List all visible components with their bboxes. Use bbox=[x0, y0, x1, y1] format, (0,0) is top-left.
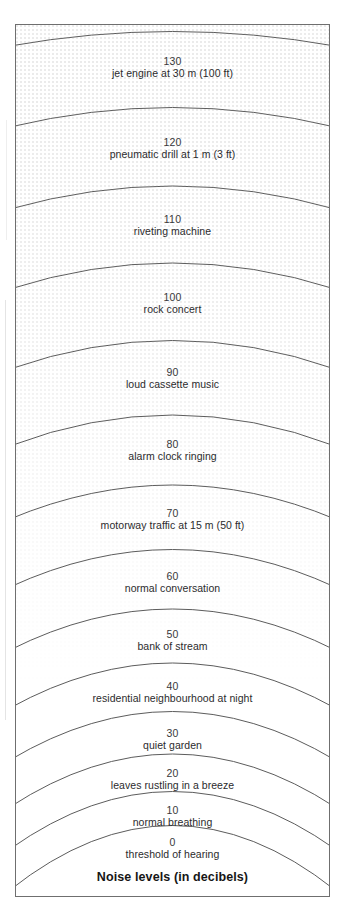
arc-100 bbox=[16, 263, 329, 289]
arc-90 bbox=[16, 341, 329, 370]
band-label-100: 100 rock concert bbox=[16, 291, 329, 316]
arc-110 bbox=[16, 186, 329, 209]
band-description: quiet garden bbox=[16, 739, 329, 752]
scan-artifact-line bbox=[6, 120, 7, 240]
band-value: 10 bbox=[16, 804, 329, 816]
band-description: riveting machine bbox=[16, 225, 329, 238]
band-label-120: 120 pneumatic drill at 1 m (3 ft) bbox=[16, 136, 329, 161]
arc-130 bbox=[16, 32, 329, 47]
band-value: 120 bbox=[16, 136, 329, 148]
band-description: bank of stream bbox=[16, 640, 329, 653]
scanned-page: 130 jet engine at 30 m (100 ft) 120 pneu… bbox=[0, 0, 345, 905]
noise-levels-figure: 130 jet engine at 30 m (100 ft) 120 pneu… bbox=[15, 24, 330, 897]
band-value: 40 bbox=[16, 680, 329, 692]
band-value: 110 bbox=[16, 213, 329, 225]
band-description: rock concert bbox=[16, 303, 329, 316]
band-description: threshold of hearing bbox=[16, 848, 329, 861]
band-description: pneumatic drill at 1 m (3 ft) bbox=[16, 148, 329, 161]
band-value: 50 bbox=[16, 628, 329, 640]
band-description: leaves rustling in a breeze bbox=[16, 779, 329, 792]
band-label-20: 20 leaves rustling in a breeze bbox=[16, 767, 329, 792]
band-value: 100 bbox=[16, 291, 329, 303]
band-value: 30 bbox=[16, 727, 329, 739]
band-description: normal breathing bbox=[16, 816, 329, 829]
band-value: 130 bbox=[16, 55, 329, 67]
band-description: alarm clock ringing bbox=[16, 450, 329, 463]
band-label-60: 60 normal conversation bbox=[16, 570, 329, 595]
arc-120 bbox=[16, 108, 329, 128]
figure-caption: Noise levels (in decibels) bbox=[16, 870, 329, 884]
band-label-30: 30 quiet garden bbox=[16, 727, 329, 752]
band-label-70: 70 motorway traffic at 15 m (50 ft) bbox=[16, 507, 329, 532]
band-description: loud cassette music bbox=[16, 378, 329, 391]
band-value: 60 bbox=[16, 570, 329, 582]
band-label-50: 50 bank of stream bbox=[16, 628, 329, 653]
band-label-130: 130 jet engine at 30 m (100 ft) bbox=[16, 55, 329, 80]
band-value: 90 bbox=[16, 366, 329, 378]
band-value: 20 bbox=[16, 767, 329, 779]
band-description: residential neighbourhood at night bbox=[16, 692, 329, 705]
band-description: jet engine at 30 m (100 ft) bbox=[16, 67, 329, 80]
band-value: 0 bbox=[16, 836, 329, 848]
band-description: normal conversation bbox=[16, 582, 329, 595]
band-label-40: 40 residential neighbourhood at night bbox=[16, 680, 329, 705]
band-label-90: 90 loud cassette music bbox=[16, 366, 329, 391]
band-label-110: 110 riveting machine bbox=[16, 213, 329, 238]
band-label-10: 10 normal breathing bbox=[16, 804, 329, 829]
band-description: motorway traffic at 15 m (50 ft) bbox=[16, 519, 329, 532]
band-value: 80 bbox=[16, 438, 329, 450]
band-value: 70 bbox=[16, 507, 329, 519]
scan-artifact-line bbox=[5, 300, 6, 720]
band-label-80: 80 alarm clock ringing bbox=[16, 438, 329, 463]
band-label-0: 0 threshold of hearing bbox=[16, 836, 329, 861]
